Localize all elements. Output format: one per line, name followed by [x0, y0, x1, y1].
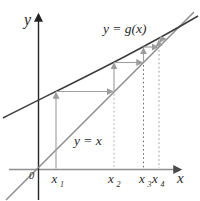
y-axis-label: y [22, 11, 32, 29]
tick-label-x2-base: x [107, 171, 114, 186]
tick-label-x1-sub: 1 [60, 180, 64, 189]
tick-label-x4-base: x [151, 171, 158, 186]
fixed-point-iteration-diagram: y x 0 y = g(x) y = x x 1 x 2 x 3 x 4 [0, 0, 200, 201]
tick-label-x4-sub: 4 [161, 180, 165, 189]
curve-equation-label: y = g(x) [101, 21, 147, 36]
tick-label-x1-base: x [51, 171, 58, 186]
tick-label-x2-sub: 2 [117, 180, 121, 189]
x-axis-label: x [176, 170, 184, 186]
cobweb-arrows [56, 39, 165, 169]
g-curve [3, 16, 198, 118]
identity-line-equation-label: y = x [72, 133, 102, 148]
tick-label-x3-base: x [138, 171, 145, 186]
origin-label: 0 [29, 170, 35, 181]
tick-label-x3-sub: 3 [147, 180, 152, 189]
tick-labels: x 1 x 2 x 3 x 4 [51, 171, 165, 189]
cobweb-plot-canvas: y x 0 y = g(x) y = x x 1 x 2 x 3 x 4 [0, 0, 200, 201]
